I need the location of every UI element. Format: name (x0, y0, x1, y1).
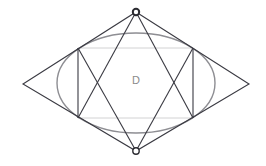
geometry-canvas: D (0, 0, 266, 166)
geometry-figure: D (0, 0, 266, 166)
region-label-d: D (132, 74, 140, 86)
top-vertex-marker (133, 9, 139, 15)
bottom-vertex-marker (133, 148, 139, 154)
